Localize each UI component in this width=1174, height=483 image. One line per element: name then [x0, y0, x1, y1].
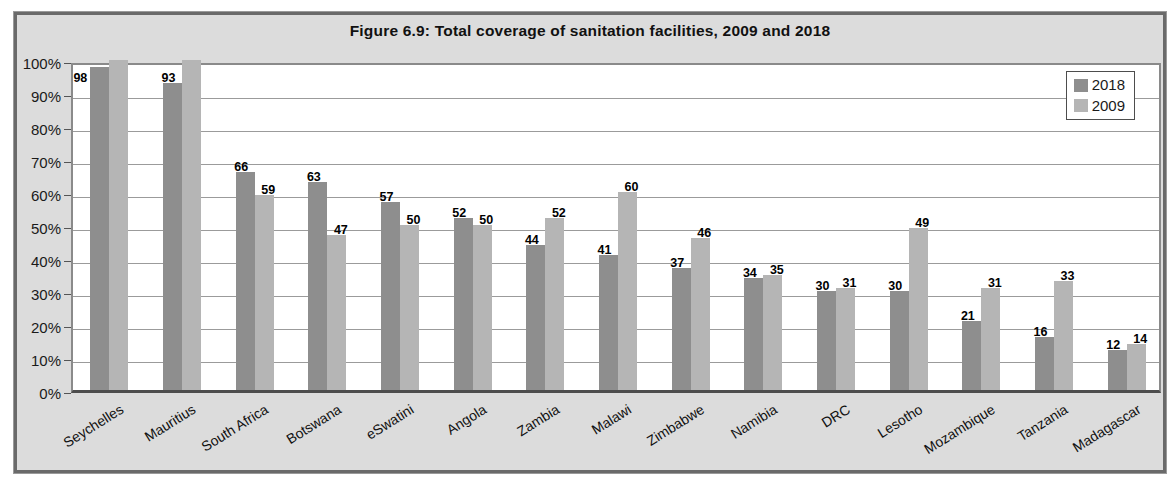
bar-2018-mozambique	[962, 321, 981, 390]
legend-label-2009: 2009	[1092, 98, 1125, 115]
bar-value-label: 60	[625, 181, 639, 194]
y-tick-mark	[64, 294, 71, 295]
bar-value-label: 37	[670, 257, 684, 270]
legend-swatch-2018	[1074, 79, 1088, 92]
bar-value-label: 21	[961, 310, 975, 323]
bar-value-label: 93	[162, 72, 176, 85]
bar-2009-south-africa	[255, 195, 274, 390]
bar-group-angola: 5250	[436, 65, 509, 390]
y-tick-label: 90%	[19, 89, 61, 104]
bar-2018-angola	[454, 218, 473, 390]
y-tick-mark	[64, 228, 71, 229]
bar-group-south-africa: 6659	[218, 65, 291, 390]
page-background: Figure 6.9: Total coverage of sanitation…	[0, 0, 1174, 483]
y-tick-label: 20%	[19, 320, 61, 335]
legend-swatch-2009	[1074, 99, 1088, 112]
x-category-label-lesotho: Lesotho	[874, 401, 925, 441]
y-tick-mark	[64, 360, 71, 361]
bar-value-label: 30	[816, 280, 830, 293]
bar-value-label: 52	[552, 207, 566, 220]
y-tick-label: 50%	[19, 221, 61, 236]
bar-value-label: 63	[307, 171, 321, 184]
bar-value-label: 41	[598, 244, 612, 257]
x-category-label-tanzania: Tanzania	[1014, 401, 1070, 444]
bar-2009-malawi	[618, 192, 637, 390]
bar-group-malawi: 4160	[582, 65, 655, 390]
x-category-label-seychelles: Seychelles	[60, 401, 126, 450]
y-tick-label: 0%	[19, 386, 61, 401]
x-category-label-zimbabwe: Zimbabwe	[644, 401, 707, 449]
bar-group-botswana: 6347	[291, 65, 364, 390]
bar-2018-zimbabwe	[672, 268, 691, 390]
y-tick-mark	[64, 327, 71, 328]
bar-2018-botswana	[308, 182, 327, 390]
bar-2018-tanzania	[1035, 337, 1054, 390]
y-tick-label: 60%	[19, 188, 61, 203]
bar-group-mauritius: 93	[146, 65, 219, 390]
y-tick-label: 100%	[19, 56, 61, 71]
legend-entry-2009: 2009	[1074, 98, 1125, 115]
legend-label-2018: 2018	[1092, 77, 1125, 94]
bar-2018-namibia	[744, 278, 763, 390]
x-category-label-drc: DRC	[818, 401, 852, 431]
bar-2018-mauritius	[163, 83, 182, 390]
bar-group-namibia: 3435	[727, 65, 800, 390]
y-tick-label: 80%	[19, 122, 61, 137]
bar-2009-botswana	[327, 235, 346, 390]
x-category-label-mauritius: Mauritius	[142, 401, 199, 445]
bar-value-label: 34	[743, 267, 757, 280]
x-category-label-south-africa: South Africa	[199, 401, 272, 455]
bar-value-label: 57	[380, 191, 394, 204]
y-tick-mark	[64, 96, 71, 97]
bar-value-label: 46	[697, 227, 711, 240]
bar-value-label: 16	[1034, 326, 1048, 339]
y-tick-label: 30%	[19, 287, 61, 302]
bar-value-label: 30	[888, 280, 902, 293]
bar-value-label: 66	[234, 161, 248, 174]
bar-2009-mauritius	[182, 60, 201, 390]
bar-2018-madagascar	[1108, 350, 1127, 390]
bar-value-label: 31	[843, 277, 857, 290]
x-category-label-angola: Angola	[444, 401, 489, 438]
y-tick-mark	[64, 63, 71, 64]
chart-title: Figure 6.9: Total coverage of sanitation…	[17, 22, 1163, 40]
x-category-label-botswana: Botswana	[283, 401, 344, 447]
bar-value-label: 52	[452, 207, 466, 220]
bar-2009-lesotho	[909, 228, 928, 390]
bar-2018-zambia	[526, 245, 545, 390]
bar-2018-malawi	[599, 255, 618, 390]
bar-value-label: 59	[261, 184, 275, 197]
plot-area: 9893665963475750525044524160374634353031…	[71, 63, 1161, 393]
figure-box: Figure 6.9: Total coverage of sanitation…	[14, 12, 1166, 473]
bar-group-eswatini: 5750	[364, 65, 437, 390]
y-tick-mark	[64, 393, 71, 394]
y-tick-mark	[64, 129, 71, 130]
bar-2018-eswatini	[381, 202, 400, 390]
bar-2009-seychelles	[109, 60, 128, 390]
bar-value-label: 50	[407, 214, 421, 227]
bar-group-drc: 3031	[800, 65, 873, 390]
bar-value-label: 98	[73, 72, 87, 85]
bar-2009-angola	[473, 225, 492, 390]
y-tick-label: 10%	[19, 353, 61, 368]
y-tick-mark	[64, 261, 71, 262]
y-tick-mark	[64, 195, 71, 196]
bar-2009-tanzania	[1054, 281, 1073, 390]
bar-2009-zambia	[545, 218, 564, 390]
bar-2009-mozambique	[981, 288, 1000, 390]
bar-value-label: 44	[525, 234, 539, 247]
bar-2018-seychelles	[90, 67, 109, 390]
legend: 20182009	[1066, 71, 1135, 120]
bar-2018-south-africa	[236, 172, 255, 390]
bar-value-label: 33	[1061, 270, 1075, 283]
bar-2009-zimbabwe	[691, 238, 710, 390]
x-category-label-mozambique: Mozambique	[921, 401, 997, 457]
x-category-label-zambia: Zambia	[514, 401, 562, 439]
bar-2009-namibia	[763, 275, 782, 391]
y-tick-label: 70%	[19, 155, 61, 170]
bar-2009-drc	[836, 288, 855, 390]
legend-entry-2018: 2018	[1074, 77, 1125, 94]
bar-2009-madagascar	[1127, 344, 1146, 390]
bar-value-label: 14	[1133, 333, 1147, 346]
bar-value-label: 31	[988, 277, 1002, 290]
